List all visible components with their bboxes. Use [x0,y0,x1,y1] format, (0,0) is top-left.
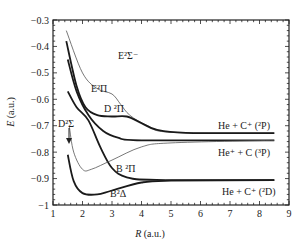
y-tick-labels: −0.3−0.4−0.5−0.6−0.7−0.8−0.9−1 [31,15,49,211]
curves [66,31,274,195]
label-b2pi: B ²Π [116,163,135,174]
label-d2pi: D ²Π [104,103,124,114]
x-tick-labels: 123456789 [51,208,292,219]
y-axis-title: E (a.u.) [5,97,17,128]
x-tick-label: 7 [228,208,233,219]
label-asymptote-he-cplus-2p: He + C⁺ (²P) [218,120,270,132]
x-tick-label: 5 [169,208,174,219]
x-axis-title: R (a.u.) [134,228,165,240]
x-tick-label: 2 [80,208,85,219]
label-asymptote-heplus-c-3p: He⁺ + C (³P) [218,147,270,159]
x-tick-label: 8 [257,208,262,219]
plot-frame [53,20,289,205]
x-tick-label: 6 [198,208,203,219]
x-tick-label: 4 [139,208,144,219]
x-tick-label: 3 [110,208,115,219]
label-asymptote-he-cplus-2d: He + C⁺ (²D) [222,186,276,198]
y-tick-label: −0.4 [31,41,49,52]
y-tick-label: −0.3 [31,15,49,26]
y-tick-label: −0.8 [31,147,49,158]
x-tick-label: 1 [51,208,56,219]
x-tick-label: 9 [287,208,292,219]
y-tick-label: −0.7 [31,120,49,131]
y-tick-label: −1 [38,200,49,211]
curve-D-2Σ [68,91,274,180]
y-tick-label: −0.5 [31,67,49,78]
axis-ticks [53,20,289,205]
label-e2sigma-minus: E²Σ⁻ [118,50,138,61]
label-e2pi: E²Π [91,83,107,94]
y-tick-label: −0.9 [31,173,49,184]
y-tick-label: −0.6 [31,94,49,105]
curve-E-2Σ- [66,31,274,134]
potential-energy-chart: 123456789 −0.3−0.4−0.5−0.6−0.7−0.8−0.9−1… [0,0,306,246]
label-d2sigma: D²Σ [58,118,74,129]
label-b2delta: B²Δ [110,188,127,199]
